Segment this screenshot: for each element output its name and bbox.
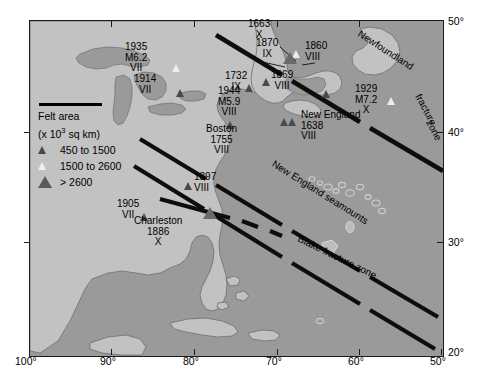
legend-entry-over-2600: > 2600 xyxy=(38,176,198,189)
symbol-1914 xyxy=(176,83,184,101)
lon-label-60: 60° xyxy=(348,355,364,367)
lat-label-40: 40° xyxy=(448,126,464,138)
label-1755-intensity: VIII xyxy=(206,145,237,156)
symbol-1638-new-england xyxy=(288,112,296,130)
legend-units: (x 103 sq km) xyxy=(38,124,198,141)
lon-tick-top-70 xyxy=(277,21,278,27)
legend-title: Felt area xyxy=(38,110,198,123)
label-1638-intensity: VIII xyxy=(301,131,360,142)
label-1860-year: 1860 xyxy=(305,41,327,52)
lon-label-80: 80° xyxy=(183,355,199,367)
symbol-1886-charleston xyxy=(203,205,217,223)
legend-units-suffix: sq km) xyxy=(66,128,100,140)
yucatan-landmass xyxy=(90,335,146,355)
label-charleston-1886: Charleston 1886 X xyxy=(134,216,182,248)
lat-label-50: 50° xyxy=(448,15,464,27)
lat-label-20: 20° xyxy=(448,346,464,358)
label-1935-year: 1935 xyxy=(125,42,147,53)
symbol-1638-secondary xyxy=(280,112,288,130)
label-1870-year: 1870 xyxy=(256,38,278,49)
legend-entry-450-1500: 450 to 1500 xyxy=(38,144,198,157)
label-1897-year: 1897 xyxy=(194,172,216,183)
legend-entry-label: > 2600 xyxy=(60,176,92,189)
newfoundland-fracture-zone-line xyxy=(216,35,443,171)
lat-tick-right-30 xyxy=(437,242,443,243)
symbol-1870 xyxy=(283,50,297,68)
label-1869: 1869 VIII xyxy=(271,70,293,91)
hispaniola-island xyxy=(248,330,280,341)
cuba-island xyxy=(170,318,238,337)
label-1869-year: 1869 xyxy=(271,70,293,81)
legend-scale-bar xyxy=(39,103,102,106)
lon-label-100: 100° xyxy=(15,355,37,367)
lat-label-30: 30° xyxy=(448,236,464,248)
label-1869-intensity: VIII xyxy=(271,81,293,92)
label-1870-intensity: IX xyxy=(256,49,278,60)
small-filled-triangle-icon xyxy=(38,146,58,154)
label-1663-year: 1663 xyxy=(248,19,270,30)
label-1944-intensity: VIII xyxy=(218,107,240,118)
label-boston-1755: Boston 1755 VIII xyxy=(206,124,237,156)
legend: Felt area (x 103 sq km) 450 to 1500 1500… xyxy=(38,103,198,189)
lon-tick-top-80 xyxy=(194,21,195,27)
lat-tick-left-40 xyxy=(24,132,30,133)
lon-tick-top-90 xyxy=(111,21,112,27)
legend-entry-label: 450 to 1500 xyxy=(60,144,115,157)
lon-label-70: 70° xyxy=(266,355,282,367)
label-new-england-place: New England xyxy=(301,110,360,121)
label-boston-place: Boston xyxy=(206,124,237,135)
label-1905-year: 1905 xyxy=(117,199,139,210)
label-1860-intensity: VIII xyxy=(305,52,327,63)
label-1914-year: 1914 xyxy=(134,74,156,85)
label-1935: 1935 M6.2 VII xyxy=(125,42,147,74)
large-filled-triangle-icon xyxy=(38,176,58,188)
symbol-1935 xyxy=(172,58,180,76)
label-new-england-1638: New England 1638 VIII xyxy=(301,110,360,142)
legend-units-prefix: (x 10 xyxy=(38,128,61,140)
label-1944: 1944 M5.9 VIII xyxy=(218,86,240,118)
label-1897: 1897 VIII xyxy=(194,172,216,193)
label-1732-year: 1732 xyxy=(225,71,247,82)
label-1929-year: 1929 xyxy=(355,84,377,95)
label-1886-intensity: X xyxy=(134,237,182,248)
lon-label-90: 90° xyxy=(100,355,116,367)
label-1914-intensity: VII xyxy=(134,85,156,96)
legend-entry-1500-2600: 1500 to 2600 xyxy=(38,160,198,173)
lat-tick-left-30 xyxy=(24,242,30,243)
legend-entry-label: 1500 to 2600 xyxy=(60,160,121,173)
symbol-1897 xyxy=(184,176,192,194)
label-1870: 1870 IX xyxy=(256,38,278,59)
lon-tick-top-60 xyxy=(359,21,360,27)
label-1944-year: 1944 xyxy=(218,86,240,97)
symbol-1944 xyxy=(262,72,270,90)
open-triangle-icon xyxy=(38,162,58,170)
label-1897-intensity: VIII xyxy=(194,183,216,194)
symbol-1869 xyxy=(322,84,330,102)
isolated-seamounts-group xyxy=(316,222,354,324)
label-1914: 1914 VII xyxy=(134,74,156,95)
label-1860: 1860 VIII xyxy=(305,41,327,62)
lon-label-50: 50° xyxy=(430,355,446,367)
symbol-1929 xyxy=(387,91,395,109)
label-charleston-place: Charleston xyxy=(134,216,182,227)
label-1935-intensity: VII xyxy=(125,63,147,74)
